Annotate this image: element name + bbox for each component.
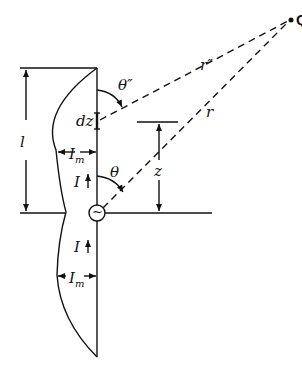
label-z: z [154,164,162,179]
label-theta-double-prime: θ″ [118,78,133,93]
label-r-double-prime: r″ [200,58,213,73]
point-q-marker [289,18,294,23]
label-q: Q [296,12,302,27]
label-l: l [20,135,25,150]
label-im-upper: Im [69,147,84,165]
label-i-upper: I [74,175,80,190]
diagram-lines [0,0,302,377]
label-i-lower: I [74,240,80,255]
label-r: r [206,105,213,120]
label-im-lower: Im [69,271,84,289]
source-icon: ~ [92,205,103,218]
label-dz: dz [76,114,94,129]
label-theta: θ [110,165,119,180]
antenna-diagram: Q r″ r θ″ θ dz l z Im I I Im ~ [0,0,302,377]
